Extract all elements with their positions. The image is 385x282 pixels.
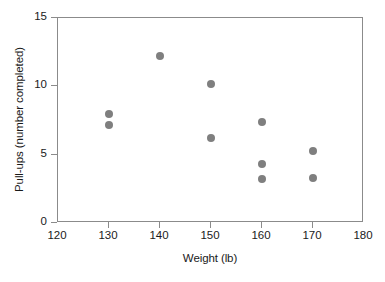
- y-tick-label: 0: [7, 216, 47, 228]
- data-point: [105, 110, 113, 118]
- y-axis-title: Pull-ups (number completed): [8, 17, 30, 222]
- data-point: [309, 174, 317, 182]
- data-point: [258, 175, 266, 183]
- data-point: [105, 121, 113, 129]
- x-tick-label: 140: [137, 230, 181, 242]
- x-tick-label: 170: [290, 230, 334, 242]
- x-tick-mark: [210, 222, 211, 228]
- x-tick-label: 180: [341, 230, 385, 242]
- y-tick-label: 10: [7, 79, 47, 91]
- data-point: [156, 52, 164, 60]
- data-point: [258, 118, 266, 126]
- data-point: [258, 160, 266, 168]
- x-tick-mark: [108, 222, 109, 228]
- x-tick-mark: [159, 222, 160, 228]
- plot-area: [57, 17, 363, 222]
- data-point: [207, 80, 215, 88]
- y-tick-label: 15: [7, 11, 47, 23]
- y-tick-mark: [51, 222, 57, 223]
- scatter-chart: Pull-ups (number completed) Weight (lb) …: [0, 0, 385, 282]
- x-tick-label: 160: [239, 230, 283, 242]
- data-point: [309, 147, 317, 155]
- x-tick-mark: [312, 222, 313, 228]
- y-tick-label: 5: [7, 148, 47, 160]
- data-point: [207, 134, 215, 142]
- x-tick-label: 130: [86, 230, 130, 242]
- x-tick-mark: [261, 222, 262, 228]
- x-axis-title: Weight (lb): [57, 252, 363, 264]
- x-tick-label: 120: [35, 230, 79, 242]
- x-tick-label: 150: [188, 230, 232, 242]
